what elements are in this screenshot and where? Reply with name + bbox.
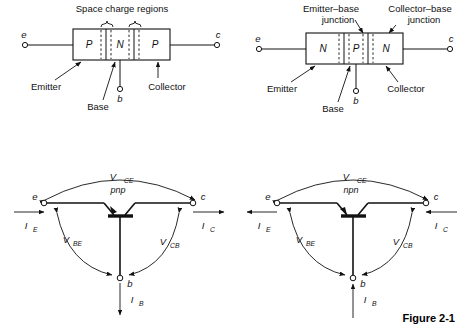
npn-terminal-b-label: b [353, 95, 358, 106]
npn-symbol-c-label: c [434, 191, 439, 202]
pnp-symbol-b-label: b [127, 278, 132, 289]
pnp-collector-label: Collector [148, 81, 186, 92]
figure-caption: Figure 2-1 [402, 312, 455, 324]
npn-vbe-label: V [296, 234, 304, 245]
panel-npn-symbol: V CE npn e c b I E I C I B V BE V CB [247, 171, 457, 318]
emitter-base-junction-leader [355, 20, 363, 33]
npn-symbol-emitter-node [274, 200, 280, 206]
npn-emitter-leader [291, 66, 315, 82]
npn-symbol-e-label: e [265, 191, 270, 202]
npn-emitter-label: Emitter [267, 83, 297, 94]
emitter-base-junction-label-line2: junction [321, 14, 355, 25]
npn-vbe-sub: BE [306, 240, 316, 247]
npn-base-leader [338, 66, 350, 102]
pnp-vcb-label: V [160, 236, 168, 247]
pnp-symbol-c-label: c [201, 191, 206, 202]
space-charge-brace-right [129, 21, 141, 27]
npn-base-terminal-node [353, 88, 358, 93]
pnp-region-base-label: N [116, 39, 124, 50]
panel-pnp-symbol: V CE pnp e c b I E I C I B V BE V CB [14, 171, 224, 315]
npn-ib-label: I [364, 294, 367, 305]
pnp-region-emitter-label: P [86, 39, 93, 50]
pnp-collector-slant [125, 203, 135, 215]
pnp-symbol-base-node [117, 275, 123, 281]
panel-pnp-structure: Space charge regions P N P e c b [21, 3, 220, 112]
pnp-ie-sub: E [33, 226, 38, 233]
npn-ic-label: I [435, 220, 438, 231]
pnp-emitter-arrowhead [110, 206, 117, 214]
npn-vcb-sub: CB [403, 242, 413, 249]
npn-symbol-base-node [350, 275, 356, 281]
pnp-emitter-leader [55, 62, 81, 80]
diagram-canvas: Space charge regions P N P e c b [0, 0, 467, 335]
pnp-vbe-sub: BE [73, 240, 83, 247]
npn-collector-terminal-node [447, 46, 452, 51]
figure-2-1: Space charge regions P N P e c b [0, 0, 467, 335]
npn-vce-sub: CE [357, 177, 367, 184]
pnp-base-label: Base [87, 101, 109, 112]
npn-region-emitter-label: N [319, 43, 327, 54]
pnp-symbol-collector-node [190, 200, 196, 206]
pnp-ib-sub: B [139, 300, 144, 307]
npn-symbol-b-label: b [360, 278, 365, 289]
pnp-ie-label: I [25, 220, 28, 231]
space-charge-brace-left [101, 21, 113, 27]
npn-collector-slant [358, 203, 368, 215]
pnp-terminal-e-label: e [21, 29, 26, 40]
collector-base-junction-label-line2: junction [407, 14, 441, 25]
npn-base-label: Base [322, 103, 344, 114]
pnp-region-collector-label: P [152, 39, 159, 50]
pnp-terminal-c-label: c [216, 29, 221, 40]
pnp-collector-terminal-node [214, 42, 219, 47]
pnp-base-leader [103, 62, 115, 100]
npn-device-type-label: npn [343, 185, 358, 195]
npn-symbol-collector-node [423, 200, 429, 206]
npn-ib-sub: B [372, 300, 377, 307]
pnp-emitter-terminal-node [22, 42, 27, 47]
emitter-base-junction-label-line1: Emitter–base [303, 3, 359, 14]
pnp-device-type-label: pnp [109, 185, 125, 195]
collector-base-junction-label-line1: Collector–base [388, 3, 451, 14]
npn-terminal-e-label: e [255, 33, 260, 44]
npn-ie-sub: E [266, 226, 271, 233]
npn-terminal-c-label: c [449, 33, 454, 44]
pnp-vce-sub: CE [124, 177, 134, 184]
pnp-emitter-label: Emitter [31, 81, 61, 92]
npn-collector-leader [386, 66, 398, 82]
npn-region-base-label: P [353, 43, 360, 54]
npn-collector-label: Collector [387, 83, 425, 94]
pnp-ic-label: I [202, 220, 205, 231]
pnp-base-terminal-node [117, 86, 122, 91]
pnp-symbol-e-label: e [32, 191, 37, 202]
npn-emitter-terminal-node [256, 46, 261, 51]
pnp-vcb-sub: CB [170, 242, 180, 249]
panel-npn-structure: Emitter–base junction Collector–base jun… [255, 3, 453, 114]
npn-vcb-label: V [393, 236, 401, 247]
pnp-symbol-emitter-node [41, 200, 47, 206]
npn-ie-label: I [258, 220, 261, 231]
npn-ic-sub: C [443, 226, 448, 233]
space-charge-regions-title: Space charge regions [76, 3, 169, 14]
pnp-vbe-label: V [63, 234, 71, 245]
collector-base-junction-leader [389, 25, 396, 33]
pnp-ib-label: I [131, 294, 134, 305]
pnp-terminal-b-label: b [117, 93, 122, 104]
pnp-ic-sub: C [210, 226, 215, 233]
npn-region-collector-label: N [382, 43, 390, 54]
